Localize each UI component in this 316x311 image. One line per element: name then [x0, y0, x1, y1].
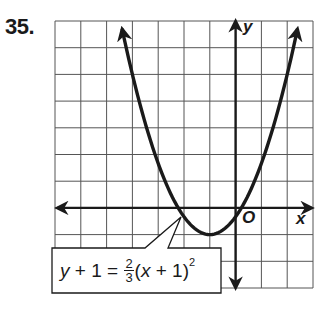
- y-axis-label: y: [243, 17, 252, 37]
- equation-label-box: y + 1 = 2 3 ( x + 1) 2: [52, 248, 221, 293]
- fraction-denominator: 3: [125, 271, 132, 284]
- equation-exponent: 2: [189, 256, 195, 268]
- x-axis-label: x: [296, 209, 305, 229]
- equation-fraction: 2 3: [124, 257, 133, 284]
- equation-rhs-variable: x: [141, 260, 151, 282]
- fraction-numerator: 2: [124, 257, 133, 271]
- equation-lhs-rest: + 1 =: [70, 260, 124, 282]
- equation-rhs-rest: + 1): [150, 260, 189, 282]
- origin-label: O: [242, 208, 255, 228]
- equation-text: y + 1 = 2 3 ( x + 1) 2: [60, 257, 195, 284]
- equation-lhs-variable: y: [60, 260, 70, 282]
